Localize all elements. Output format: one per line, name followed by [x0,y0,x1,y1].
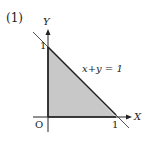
y-axis-arrow-icon [46,29,51,35]
y-axis-label: Y [43,17,50,27]
x-axis-label: X [134,112,141,122]
x-axis-arrow-icon [126,115,132,120]
y-tick-one-label: 1 [40,41,46,51]
line-equation-label: x+y = 1 [82,64,123,74]
problem-label: (1) [6,12,23,24]
origin-label: O [35,120,43,130]
x-tick-one-label: 1 [112,120,118,130]
